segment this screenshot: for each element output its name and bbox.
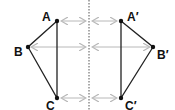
label-c-prime: C′ bbox=[125, 99, 137, 110]
label-b-prime: B′ bbox=[157, 48, 169, 62]
vertex-b-dot bbox=[26, 45, 30, 49]
vertex-c-dot bbox=[55, 96, 59, 100]
label-c: C bbox=[46, 99, 55, 110]
label-a-prime: A′ bbox=[127, 10, 139, 24]
vertex-c-prime-dot bbox=[119, 96, 123, 100]
triangle-abc bbox=[28, 21, 57, 98]
triangle-a-prime-b-prime-c-prime bbox=[121, 21, 153, 98]
vertex-a-prime-dot bbox=[119, 19, 123, 23]
vertex-a-dot bbox=[55, 19, 59, 23]
vertex-b-prime-dot bbox=[151, 45, 155, 49]
label-a: A bbox=[42, 10, 51, 24]
diagram-canvas: A B C A′ B′ C′ bbox=[0, 0, 175, 110]
reflection-diagram: A B C A′ B′ C′ bbox=[0, 0, 175, 110]
label-b: B bbox=[14, 45, 23, 59]
